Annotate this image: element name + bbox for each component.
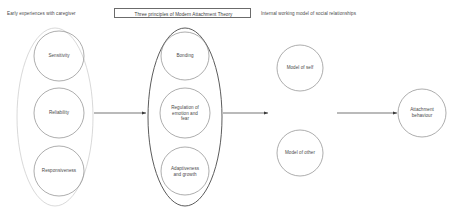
- middle-group-ellipse: [148, 28, 222, 206]
- heading-early-experiences: Early experiences with caregiver: [7, 11, 76, 16]
- heading-three-principles: Three principles of Modern Attachment Th…: [115, 9, 252, 19]
- reliability-circle: [34, 88, 84, 138]
- model-of-self-circle: [277, 45, 323, 91]
- attachment-behaviour-circle: [398, 89, 446, 137]
- left-group-ellipse: [17, 28, 93, 206]
- regulation-circle: [160, 88, 210, 138]
- heading-internal-working-model: Internal working model of social relatio…: [261, 11, 356, 16]
- responsiveness-circle: [34, 146, 84, 196]
- diagram-canvas: Early experiences with caregiver Three p…: [0, 0, 456, 214]
- diagram-vector-layer: [0, 0, 456, 214]
- heading-three-principles-box: Three principles of Modern Attachment Th…: [114, 8, 251, 18]
- sensitivity-circle: [34, 31, 84, 81]
- adaptiveness-circle: [161, 147, 209, 195]
- model-of-other-circle: [277, 130, 323, 176]
- bonding-circle: [161, 32, 209, 80]
